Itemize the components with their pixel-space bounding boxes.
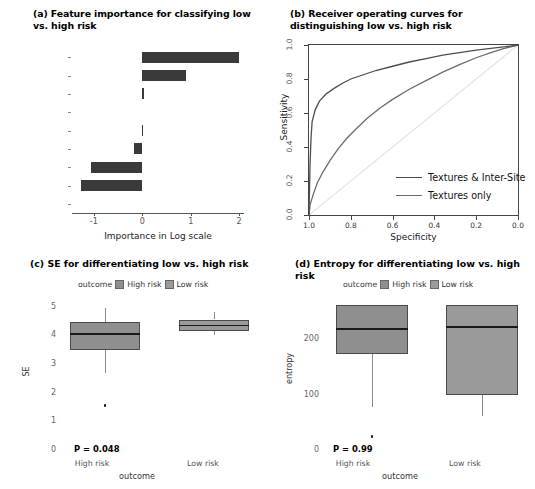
bar-row <box>72 52 244 63</box>
panel-d-legend: outcome High risk Low risk <box>343 280 473 289</box>
panel-c-legend-title: outcome <box>78 280 112 289</box>
panel-b-title: (b) Receiver operating curves for distin… <box>290 8 530 32</box>
bar-contrast <box>81 180 143 191</box>
panel-b-legend-line-0 <box>396 177 422 178</box>
panelD-y-tick-label: 200 <box>285 334 319 343</box>
panel-d-legend-swatch-high-risk <box>380 280 389 289</box>
bar-row <box>72 107 244 118</box>
panel-b-legend-label-0: Textures & Inter-Site <box>428 172 525 183</box>
panelD-y-tick-label: 100 <box>285 390 319 399</box>
panel-b-x-tick-label: 1.0 <box>303 221 315 230</box>
panel-c-legend-label-high-risk: High risk <box>127 280 161 289</box>
bar-row <box>72 70 244 81</box>
panel-a-title: (a) Feature importance for classifying l… <box>33 8 258 32</box>
panel-a-x-tick-mark <box>142 213 143 216</box>
panel-c-legend-label-low-risk: Low risk <box>177 280 209 289</box>
panel-d-legend-label-high-risk: High risk <box>392 280 426 289</box>
panel-b-y-tick-label: 0.0 <box>285 204 294 226</box>
bar-row <box>72 198 244 209</box>
bar-row <box>72 125 244 136</box>
panel-b-y-tick-mark <box>304 79 308 80</box>
panel-c-group-label-low-risk: Low risk <box>163 459 243 468</box>
bar-homogeneity <box>134 143 142 154</box>
panel-c-x-axis-label: outcome <box>92 471 182 481</box>
panel-a-x-tick-label: -1 <box>90 217 98 226</box>
panel-a-y-tick <box>68 112 71 113</box>
panelC-y-tick-label: 4 <box>22 330 56 339</box>
panel-a-x-axis-label: Importance in Log scale <box>72 231 244 241</box>
panel-b-x-tick-mark <box>434 216 435 220</box>
panel-b-legend-line-1 <box>396 195 422 196</box>
panel-d-group-label-low-risk: Low risk <box>425 459 505 468</box>
bar-row <box>72 180 244 191</box>
panel-b-x-tick-mark <box>309 216 310 220</box>
panel-a-y-tick <box>68 186 71 187</box>
bar-energy <box>91 162 142 173</box>
panel-b-x-tick-mark <box>518 216 519 220</box>
panel-a-x-tick-label: 2 <box>237 217 242 226</box>
panel-a-y-tick <box>68 94 71 95</box>
panelC-y-tick-label: 1 <box>22 416 56 425</box>
panel-a-x-tick-mark <box>94 213 95 216</box>
panel-c-legend-swatch-high-risk <box>115 280 124 289</box>
panel-b-x-axis-label: Specificity <box>308 232 519 242</box>
panel-b-y-tick-mark <box>304 181 308 182</box>
panel-b-x-tick-label: 0.8 <box>345 221 357 230</box>
box-low-risk <box>446 305 518 395</box>
panel-b-x-tick-label: 0.6 <box>387 221 399 230</box>
panel-b-y-tick-label: 0.6 <box>285 102 294 124</box>
panel-d-legend-swatch-low-risk <box>430 280 439 289</box>
panel-a-feature-importance: (a) Feature importance for classifying l… <box>0 0 262 252</box>
panel-d-pvalue: P = 0.99 <box>333 444 373 454</box>
panel-b-x-tick-label: 0.0 <box>512 221 524 230</box>
panel-b-y-tick-label: 0.4 <box>285 136 294 158</box>
panelC-y-tick-label: 3 <box>22 359 56 368</box>
panelD-box-group-1 <box>325 298 520 450</box>
bar-entropy <box>142 88 143 99</box>
panel-d-plot-area <box>325 298 520 450</box>
bar-scp <box>142 70 186 81</box>
panelC-y-tick-label: 5 <box>22 302 56 311</box>
panel-d-legend-label-low-risk: Low risk <box>442 280 474 289</box>
panel-a-x-tick-label: 0 <box>140 217 145 226</box>
panel-c-legend: outcome High risk Low risk <box>78 280 208 289</box>
whisker-upper-1 <box>214 312 215 319</box>
panel-c-pvalue: P = 0.048 <box>74 444 119 454</box>
panel-b-y-tick-mark <box>304 45 308 46</box>
panel-d-legend-title: outcome <box>343 280 377 289</box>
panel-c-y-axis-label: SE <box>22 352 31 392</box>
panel-a-y-tick <box>68 204 71 205</box>
panel-d-x-axis-label: outcome <box>355 471 445 481</box>
median-line-1 <box>446 326 518 328</box>
panel-a-x-tick-label: 1 <box>188 217 193 226</box>
panel-b-legend-label-1: Textures only <box>428 190 491 201</box>
panel-b-x-tick-mark <box>351 216 352 220</box>
panelC-y-tick-label: 2 <box>22 388 56 397</box>
panel-b-y-tick-label: 0.8 <box>285 68 294 90</box>
figure-panel-grid: (a) Feature importance for classifying l… <box>0 0 535 489</box>
panel-c-se-boxplot: (c) SE for differentiating low vs. high … <box>0 252 267 489</box>
panel-a-y-tick <box>68 76 71 77</box>
panel-b-x-tick-mark <box>476 216 477 220</box>
bar-row <box>72 88 244 99</box>
panel-b-y-tick-label: 1.0 <box>285 34 294 56</box>
panel-c-legend-swatch-low-risk <box>165 280 174 289</box>
median-line-1 <box>179 325 249 327</box>
bar-se <box>142 52 239 63</box>
whisker-lower-1 <box>214 331 215 335</box>
panelC-y-tick-label: 0 <box>22 445 56 454</box>
panel-b-x-tick-label: 0.4 <box>429 221 441 230</box>
panel-c-title: (c) SE for differentiating low vs. high … <box>30 258 265 270</box>
panelD-y-tick-label: 0 <box>285 445 319 454</box>
panel-a-y-tick <box>68 149 71 150</box>
panel-a-plot-area: SESCPEntropyMeanCorrelationHomogeneityEn… <box>72 48 244 213</box>
panel-a-y-tick <box>68 131 71 132</box>
panel-a-y-tick <box>68 167 71 168</box>
panel-a-x-axis: -1012 <box>72 213 244 214</box>
bar-correlation <box>142 125 143 136</box>
panel-d-y-axis-label: entropy <box>285 346 294 392</box>
panel-a-y-tick <box>68 57 71 58</box>
bar-row <box>72 162 244 173</box>
panel-b-y-tick-mark <box>304 113 308 114</box>
panel-b-y-tick-label: 0.2 <box>285 170 294 192</box>
